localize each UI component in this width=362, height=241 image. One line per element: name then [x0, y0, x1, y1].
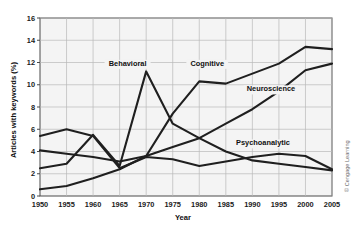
line-chart: 0246810121416 19501955196019651970197519…: [0, 0, 362, 241]
y-axis-title: Articles with keywords (%): [9, 61, 18, 158]
x-axis-tick-label: 1985: [218, 200, 234, 209]
y-axis-tick-label: 2: [31, 169, 35, 178]
y-axis-tick-label: 6: [31, 125, 35, 134]
y-axis-tick-label: 16: [27, 14, 35, 23]
x-axis-tick-label: 1990: [244, 200, 260, 209]
chart-container: 0246810121416 19501955196019651970197519…: [0, 0, 362, 241]
x-axis-tick-label: 1950: [32, 200, 48, 209]
x-axis-tick-label: 1970: [138, 200, 154, 209]
x-axis-tick-label: 2005: [324, 200, 340, 209]
series-label-behavioral: Behavioral: [109, 59, 147, 68]
copyright-credit: © Cengage Learning: [344, 140, 350, 192]
x-axis-tick-label: 1955: [58, 200, 74, 209]
y-axis-tick-label: 14: [27, 36, 36, 45]
x-axis-tick-label: 1980: [191, 200, 207, 209]
y-axis-tick-label: 8: [31, 103, 35, 112]
x-axis-tick-label: 1960: [85, 200, 101, 209]
series-label-neuroscience: Neuroscience: [247, 84, 295, 93]
x-axis-tick-label: 1965: [111, 200, 127, 209]
x-axis-tick-label: 1975: [165, 200, 181, 209]
x-axis-title: Year: [175, 213, 191, 222]
series-label-psychoanalytic: Psychoanalytic: [236, 138, 290, 147]
y-axis-tick-label: 10: [27, 80, 35, 89]
series-label-cognitive: Cognitive: [190, 59, 224, 68]
x-axis-tick-label: 1995: [271, 200, 287, 209]
x-axis-tick-label: 2000: [297, 200, 313, 209]
y-axis-tick-label: 12: [27, 58, 35, 67]
